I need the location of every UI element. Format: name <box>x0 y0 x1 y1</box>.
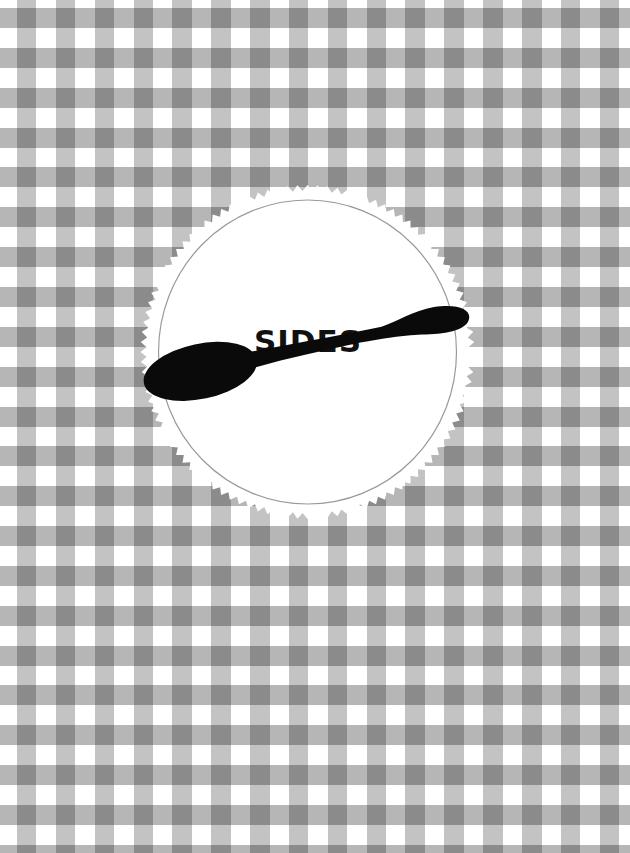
section-medallion: SIDES <box>140 183 476 523</box>
spoon-icon <box>140 183 476 523</box>
